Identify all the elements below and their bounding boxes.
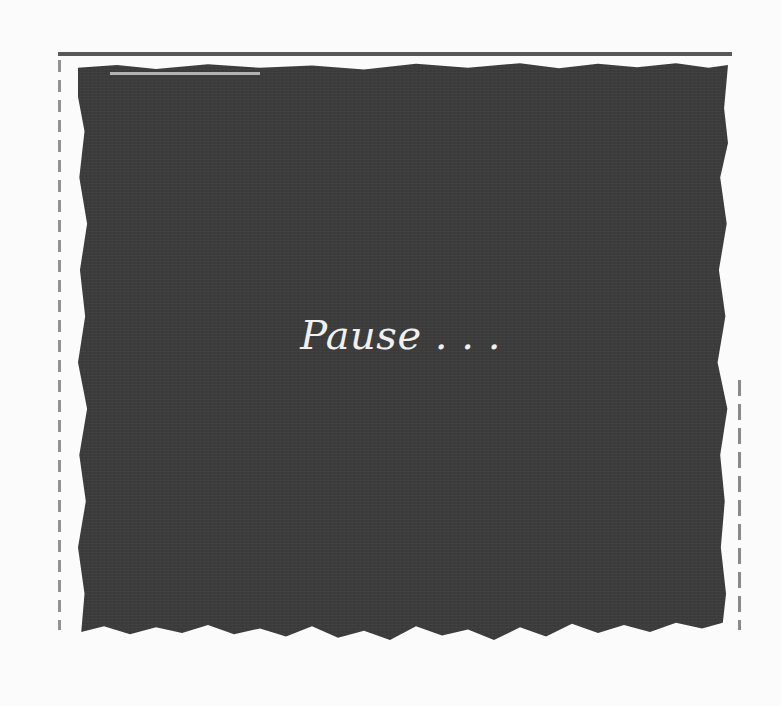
canvas: Pause . . . xyxy=(0,0,781,706)
panel-scratch xyxy=(110,72,260,75)
pause-message: Pause . . . xyxy=(0,312,781,358)
grunge-right-edge xyxy=(738,380,741,630)
grunge-top-edge xyxy=(58,52,732,56)
